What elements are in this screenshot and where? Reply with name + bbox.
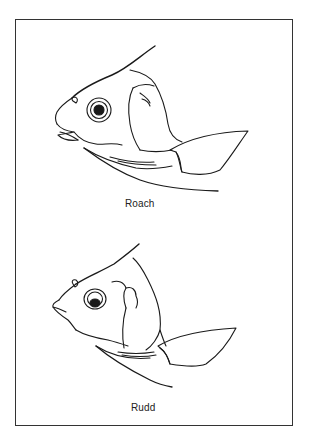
- roach-head-drawing: [56, 46, 249, 191]
- roach-label: Roach: [125, 198, 154, 209]
- rudd-label: Rudd: [131, 402, 155, 413]
- rudd-head-drawing: [53, 244, 236, 387]
- fish-illustrations: [0, 0, 309, 443]
